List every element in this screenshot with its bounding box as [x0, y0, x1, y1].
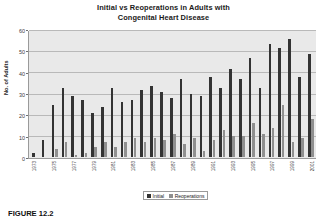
bar-initial: [219, 88, 222, 157]
x-tick-cell: [59, 160, 69, 190]
bar-reoperations: [65, 142, 68, 157]
x-tick-label: 1993: [230, 161, 235, 171]
x-tick-cell: 1979: [89, 160, 99, 190]
x-tick-cell: 1977: [69, 160, 79, 190]
bar-group: [237, 31, 247, 157]
x-tick-cell: [99, 160, 109, 190]
bar-initial: [278, 48, 281, 157]
bar-reoperations: [183, 144, 186, 157]
x-tick-label: 1989: [190, 161, 195, 171]
bar-group: [286, 31, 296, 157]
y-tick-mark: [26, 73, 28, 74]
bar-group: [99, 31, 109, 157]
legend-entry: Reoperations: [169, 193, 204, 199]
bar-initial: [180, 79, 183, 157]
bar-initial: [111, 88, 114, 157]
bar-initial: [259, 88, 262, 157]
bar-reoperations: [94, 147, 97, 158]
bar-initial: [140, 90, 143, 157]
bar-group: [148, 31, 158, 157]
bar-reoperations: [75, 155, 78, 157]
bar-group: [306, 31, 316, 157]
bar-reoperations: [223, 130, 226, 157]
figure-container: Initial vs Reoperations in Adults with C…: [0, 0, 327, 219]
y-tick-label: 10: [19, 135, 25, 141]
bar-group: [69, 31, 79, 157]
bar-initial: [160, 92, 163, 157]
x-tick-label: 1975: [51, 161, 56, 171]
bar-group: [158, 31, 168, 157]
x-tick-cell: [138, 160, 148, 190]
bar-initial: [131, 100, 134, 157]
x-tick-label: 1977: [71, 161, 76, 171]
chart-title: Initial vs Reoperations in Adults with C…: [0, 3, 327, 22]
x-tick-label: 1985: [151, 161, 156, 171]
bar-group: [89, 31, 99, 157]
legend-swatch: [147, 194, 151, 198]
x-tick-cell: 1975: [49, 160, 59, 190]
x-tick-cell: [218, 160, 228, 190]
plot-wrapper: 0102030405060: [28, 31, 316, 159]
bar-group: [40, 31, 50, 157]
bar-reoperations: [85, 153, 88, 157]
x-tick-label: 1987: [171, 161, 176, 171]
figure-caption-label: FIGURE 12.2: [8, 209, 54, 218]
y-tick-label: 60: [19, 28, 25, 34]
bar-group: [60, 31, 70, 157]
y-tick-label: 20: [19, 113, 25, 119]
y-tick-mark: [26, 137, 28, 138]
x-tick-cell: 1991: [208, 160, 218, 190]
x-tick-cell: [178, 160, 188, 190]
bar-reoperations: [193, 138, 196, 157]
bar-reoperations: [262, 134, 265, 157]
bar-group: [198, 31, 208, 157]
x-tick-cell: 2001: [307, 160, 317, 190]
x-tick-cell: 1993: [228, 160, 238, 190]
bar-reoperations: [173, 134, 176, 157]
x-tick-cell: [238, 160, 248, 190]
bar-group: [178, 31, 188, 157]
bar-reoperations: [301, 138, 304, 157]
bar-reoperations: [242, 136, 245, 157]
bar-reoperations: [154, 138, 157, 157]
bar-reoperations: [134, 138, 137, 157]
x-tick-cell: [258, 160, 268, 190]
bar-initial: [32, 153, 35, 157]
y-tick-label: 50: [19, 49, 25, 55]
y-tick-mark: [26, 158, 28, 159]
bar-reoperations: [144, 142, 147, 157]
x-tick-label: 2001: [310, 161, 315, 171]
bar-reoperations: [124, 142, 127, 157]
bar-group: [276, 31, 286, 157]
x-tick-label: 1973: [31, 161, 36, 171]
bar-initial: [121, 102, 124, 157]
x-tick-cell: 1983: [128, 160, 138, 190]
chart-legend: InitialReoperations: [143, 191, 208, 200]
bar-initial: [81, 100, 84, 157]
bar-group: [109, 31, 119, 157]
bar-group: [247, 31, 257, 157]
y-tick-label: 40: [19, 71, 25, 77]
plot-area: [28, 31, 316, 159]
legend-label: Reoperations: [175, 193, 205, 199]
bar-group: [30, 31, 40, 157]
x-tick-cell: 1995: [248, 160, 258, 190]
bar-initial: [308, 54, 311, 157]
x-tick-cell: 1987: [168, 160, 178, 190]
x-tick-cell: [118, 160, 128, 190]
bar-reoperations: [163, 140, 166, 157]
x-tick-label: 1983: [131, 161, 136, 171]
bar-reoperations: [55, 149, 58, 157]
bar-initial: [170, 98, 173, 157]
y-tick-mark: [26, 94, 28, 95]
chart-title-line-1: Initial vs Reoperations in Adults with: [0, 3, 327, 13]
bar-initial: [101, 107, 104, 157]
x-tick-cell: [158, 160, 168, 190]
x-tick-label: 1991: [210, 161, 215, 171]
y-axis-label: No. of Adults: [3, 60, 9, 95]
bar-initial: [249, 58, 252, 157]
bar-reoperations: [272, 128, 275, 157]
x-tick-cell: [39, 160, 49, 190]
bar-reoperations: [114, 147, 117, 158]
x-axis-ticks: 1973197519771979198119831985198719891991…: [29, 160, 317, 190]
